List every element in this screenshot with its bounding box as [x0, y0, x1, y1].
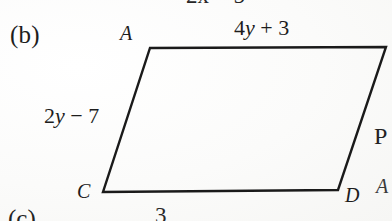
side-left-constant: 7: [88, 103, 99, 128]
side-top-coefficient: 4: [234, 15, 245, 40]
side-left-operator: −: [70, 103, 82, 128]
vertex-label-d: D: [345, 185, 359, 205]
side-label-top: 4y + 3: [234, 17, 289, 39]
parallelogram-outline: [103, 47, 386, 192]
side-label-left: 2y − 7: [44, 105, 99, 127]
vertex-label-a: A: [120, 23, 132, 43]
clipped-bottom-part-label: (c): [8, 206, 36, 221]
clipped-right-mark: A: [376, 176, 388, 196]
side-left-variable: y: [55, 103, 65, 128]
vertex-label-c: C: [77, 181, 90, 201]
clipped-right-letter: P: [374, 124, 387, 148]
side-left-coefficient: 2: [44, 103, 55, 128]
figure-container: 2x − 5 (b) A C D 4y + 3 2y − 7 P A (c) 3: [0, 0, 392, 221]
side-top-operator: +: [260, 15, 272, 40]
clipped-bottom-expression: 3: [155, 204, 167, 221]
side-top-variable: y: [245, 15, 255, 40]
side-top-constant: 3: [278, 15, 289, 40]
